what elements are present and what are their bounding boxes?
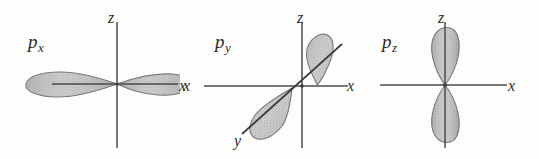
- orbital-sub-pz: z: [392, 40, 397, 55]
- orbital-label-px: px: [28, 32, 44, 54]
- orbital-sub-px: x: [38, 40, 44, 55]
- axis-label-px-z: z: [108, 10, 114, 26]
- py-axis-y: [242, 44, 342, 134]
- orbital-base-py: p: [215, 31, 225, 52]
- axis-label-pz-z: z: [438, 10, 444, 26]
- panel-pz: pz z x: [360, 0, 539, 159]
- orbital-base-pz: p: [382, 31, 392, 52]
- orbital-base-px: p: [28, 31, 38, 52]
- py-diagram: [180, 0, 360, 159]
- panel-py: py z x x y: [180, 0, 360, 159]
- orbital-label-py: py: [215, 32, 231, 54]
- axis-label-py-x-right: x: [347, 78, 354, 94]
- orbital-label-pz: pz: [382, 32, 397, 54]
- axis-label-py-z: z: [297, 10, 303, 26]
- panel-px: px z x: [0, 0, 180, 159]
- py-lobe-upper-right: [304, 33, 338, 86]
- axis-label-py-y: y: [234, 133, 241, 149]
- px-diagram: [0, 0, 180, 159]
- p-orbitals-figure: px z x: [0, 0, 539, 159]
- axis-label-py-x-left: x: [183, 78, 190, 94]
- px-origin: [115, 82, 118, 85]
- pz-origin: [443, 83, 447, 87]
- orbital-sub-py: y: [225, 40, 231, 55]
- axis-label-pz-x: x: [508, 78, 515, 94]
- py-origin: [300, 84, 304, 88]
